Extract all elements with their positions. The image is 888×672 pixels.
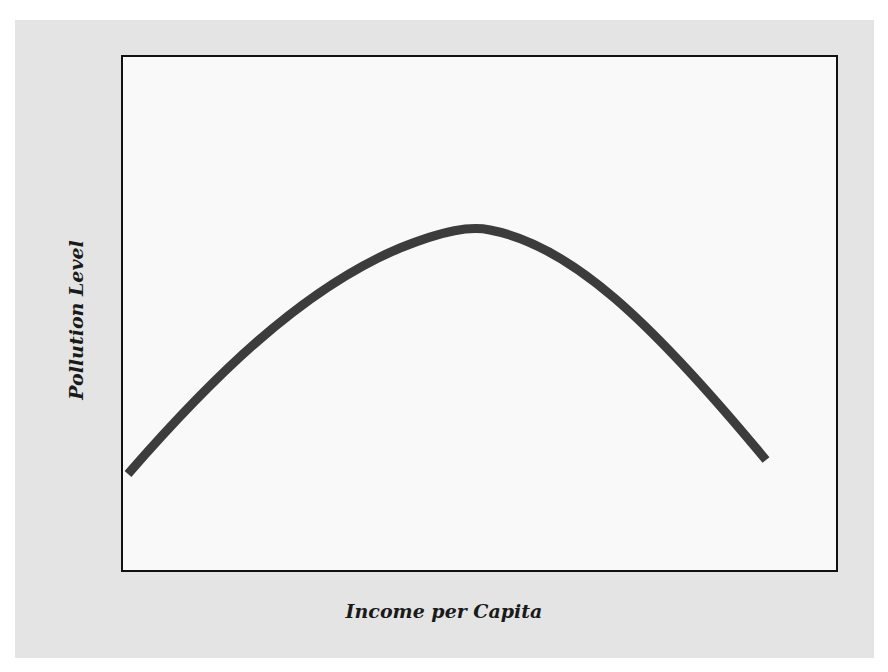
y-axis-label: Pollution Level (65, 240, 87, 400)
pollution-curve (0, 0, 888, 672)
x-axis-label: Income per Capita (0, 600, 888, 622)
